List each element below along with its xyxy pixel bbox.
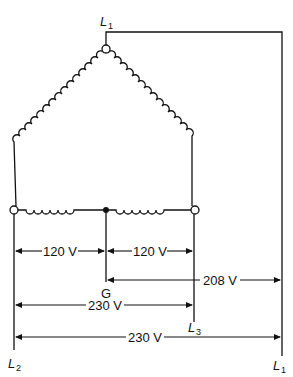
l1-right-label: L 1 bbox=[273, 358, 286, 375]
g-l3-voltage-label: 120 V bbox=[133, 244, 167, 259]
l2-g-voltage-label: 120 V bbox=[43, 244, 77, 259]
svg-text:1: 1 bbox=[108, 21, 113, 31]
g-label: G bbox=[101, 286, 111, 301]
l1-top-label: L 1 bbox=[100, 14, 113, 31]
svg-text:3: 3 bbox=[196, 327, 201, 337]
g-l1-voltage-label: 208 V bbox=[203, 273, 237, 288]
l3-label: L 3 bbox=[188, 320, 201, 337]
right-winding-coil bbox=[108, 51, 193, 206]
svg-text:L: L bbox=[100, 14, 107, 29]
l2-l1-voltage-label: 230 V bbox=[128, 330, 162, 345]
bottom-right-winding-coil bbox=[106, 210, 191, 214]
center-tap-dot bbox=[103, 207, 109, 213]
delta-transformer-diagram: 120 V 120 V 208 V 230 V 230 V G L 1 L 2 … bbox=[0, 0, 293, 377]
l2-label: L 2 bbox=[8, 356, 21, 373]
svg-text:L: L bbox=[188, 320, 195, 335]
svg-text:L: L bbox=[273, 358, 280, 373]
bottom-left-winding-coil bbox=[18, 210, 106, 214]
l3-terminal-node bbox=[191, 206, 199, 214]
svg-text:2: 2 bbox=[16, 363, 21, 373]
l2-terminal-node bbox=[10, 206, 18, 214]
left-winding-coil bbox=[13, 51, 104, 206]
svg-text:L: L bbox=[8, 356, 15, 371]
svg-text:1: 1 bbox=[281, 365, 286, 375]
l1-terminal-node bbox=[102, 45, 110, 53]
